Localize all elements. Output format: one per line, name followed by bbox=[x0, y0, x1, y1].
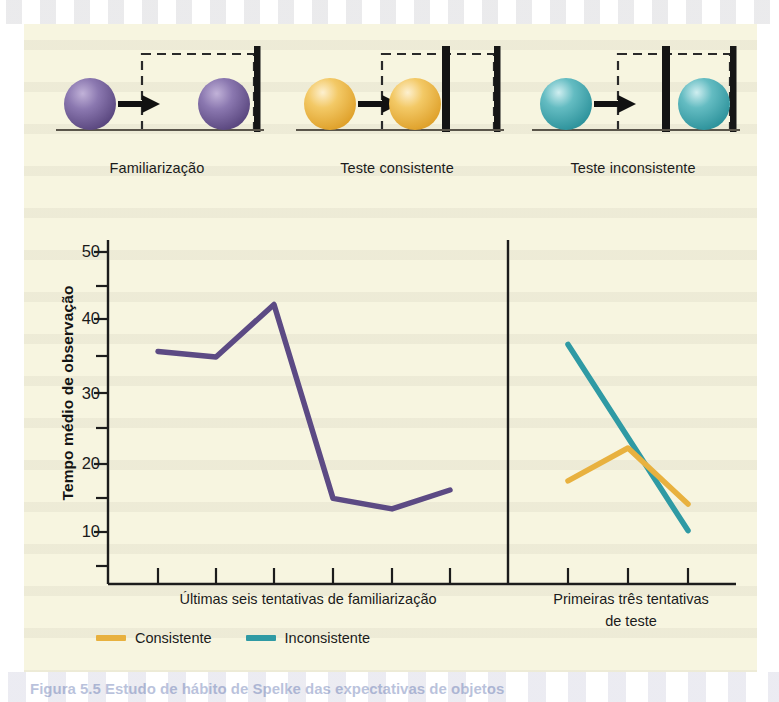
familiarization-illustration bbox=[42, 32, 272, 157]
barrier bbox=[442, 46, 450, 132]
scenario-stage bbox=[282, 32, 512, 157]
series-line-familiarization bbox=[158, 305, 450, 509]
ball-rest bbox=[389, 78, 441, 130]
ball-start bbox=[540, 78, 592, 130]
x-caption-right-line2: de teste bbox=[516, 612, 746, 632]
diagram-row: Familiarização bbox=[24, 32, 757, 197]
scenario-caption-familiarization: Familiarização bbox=[42, 160, 272, 176]
figure-caption-strip: Figura 5.5 Estudo de hábito de Spelke da… bbox=[24, 676, 757, 702]
legend-item-inconsistente[interactable]: Inconsistente bbox=[246, 630, 370, 646]
figure-panel: Familiarização bbox=[24, 24, 757, 672]
right-wall bbox=[730, 46, 737, 132]
x-ticks-right-panel bbox=[568, 568, 688, 584]
figure-caption-fragment: Figura 5.5 Estudo de hábito de Spelke da… bbox=[30, 680, 504, 697]
legend-item-consistente[interactable]: Consistente bbox=[96, 630, 212, 646]
series-line-inconsistente bbox=[568, 344, 688, 530]
motion-arrow bbox=[118, 95, 160, 113]
legend-swatch-inconsistente bbox=[246, 635, 276, 641]
scenario-inconsistent-test: Teste inconsistente bbox=[518, 32, 748, 197]
legend-label-consistente: Consistente bbox=[135, 630, 212, 646]
series-line-consistente bbox=[568, 448, 688, 504]
ball-start bbox=[64, 78, 116, 130]
ball-start bbox=[304, 78, 356, 130]
plot-surface bbox=[24, 194, 757, 594]
chart-legend: Consistente Inconsistente bbox=[96, 630, 370, 646]
ball-rest bbox=[198, 78, 250, 130]
legend-swatch-consistente bbox=[96, 635, 126, 641]
right-wall bbox=[494, 46, 501, 132]
inconsistent-test-illustration bbox=[518, 32, 748, 157]
y-minor-ticks bbox=[96, 286, 108, 566]
y-major-ticks bbox=[94, 252, 108, 532]
line-chart: Tempo médio de observação 50 40 30 20 10 bbox=[24, 194, 757, 672]
motion-arrow bbox=[594, 95, 636, 113]
scenario-consistent-test: Teste consistente bbox=[282, 32, 512, 197]
ball-rest bbox=[678, 78, 730, 130]
scenario-caption-inconsistent-test: Teste inconsistente bbox=[518, 160, 748, 176]
x-ticks-left-panel bbox=[158, 568, 450, 584]
x-caption-left: Últimas seis tentativas de familiarizaçã… bbox=[108, 590, 508, 610]
scenario-familiarization: Familiarização bbox=[42, 32, 272, 197]
scenario-stage bbox=[518, 32, 748, 157]
legend-label-inconsistente: Inconsistente bbox=[285, 630, 370, 646]
barrier bbox=[662, 46, 670, 132]
scenario-stage bbox=[42, 32, 272, 157]
scenario-caption-consistent-test: Teste consistente bbox=[282, 160, 512, 176]
right-wall bbox=[254, 46, 261, 132]
x-caption-right-line1: Primeiras três tentativas bbox=[516, 590, 746, 610]
page-showthrough-top bbox=[0, 0, 779, 24]
consistent-test-illustration bbox=[282, 32, 512, 157]
